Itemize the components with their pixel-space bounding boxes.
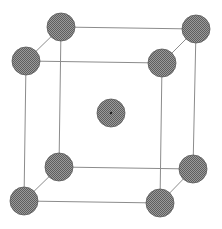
edge-back-bottom-left-to-back-bottom-right [59, 167, 193, 169]
bcc-unit-cell-diagram [0, 0, 222, 229]
edge-front-top-right-to-front-bottom-right [160, 63, 162, 203]
edge-back-top-left-to-back-bottom-left [59, 27, 61, 167]
edge-back-top-right-to-back-bottom-right [193, 29, 196, 169]
edge-front-bottom-left-to-front-bottom-right [24, 201, 160, 203]
atom-front-top-right [148, 49, 176, 77]
atom-front-top-left [12, 47, 40, 75]
center-dot [110, 112, 112, 114]
atom-back-top-right [182, 15, 210, 43]
atom-front-bottom-left [10, 187, 38, 215]
edge-front-top-left-to-front-top-right [26, 61, 162, 63]
atom-back-bottom-left [45, 153, 73, 181]
edge-back-top-left-to-back-top-right [61, 27, 196, 29]
atoms [10, 13, 210, 217]
atom-back-bottom-right [179, 155, 207, 183]
atom-front-bottom-right [146, 189, 174, 217]
edge-front-top-left-to-front-bottom-left [24, 61, 26, 201]
atom-back-top-left [47, 13, 75, 41]
